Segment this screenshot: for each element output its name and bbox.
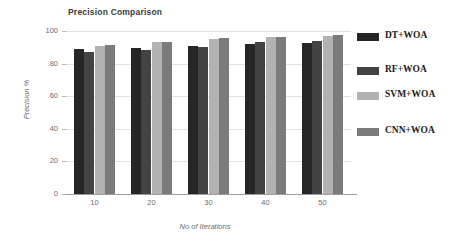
- bar-dt-woa-20: [131, 48, 141, 194]
- y-axis-tick: 40: [32, 124, 58, 133]
- bar-svm-woa-50: [323, 36, 333, 194]
- bar-svm-woa-30: [209, 39, 219, 194]
- legend-label: SVM+WOA: [385, 89, 435, 99]
- legend-swatch-icon: [357, 67, 379, 75]
- x-axis-tick-20: 20: [132, 198, 172, 207]
- y-axis-tick: 20: [32, 156, 58, 165]
- x-axis-tick-10: 10: [75, 198, 115, 207]
- bar-svm-woa-20: [152, 42, 162, 194]
- x-axis-tick-30: 30: [189, 198, 229, 207]
- legend-swatch-icon: [357, 128, 379, 136]
- y-axis-tick: 100: [32, 26, 58, 35]
- bar-group: [245, 31, 287, 194]
- x-axis-line: [66, 194, 357, 195]
- y-axis-tick: 80: [32, 59, 58, 68]
- y-axis-tick: 60: [32, 91, 58, 100]
- bar-dt-woa-50: [302, 43, 312, 194]
- bar-group: [131, 31, 173, 194]
- bar-cnn-woa-30: [219, 38, 229, 194]
- precision-comparison-chart: Precision Comparison Precision % 0204060…: [0, 0, 459, 244]
- bar-cnn-woa-50: [333, 35, 343, 194]
- bar-rf-woa-30: [198, 47, 208, 194]
- bar-rf-woa-40: [255, 42, 265, 194]
- bar-cnn-woa-10: [105, 45, 115, 194]
- bar-group: [74, 31, 116, 194]
- bar-rf-woa-20: [141, 50, 151, 194]
- bar-dt-woa-40: [245, 44, 255, 194]
- bar-dt-woa-30: [188, 46, 198, 194]
- bar-rf-woa-10: [84, 52, 94, 194]
- bar-dt-woa-10: [74, 49, 84, 194]
- x-axis-tick-50: 50: [303, 198, 343, 207]
- legend-label: CNN+WOA: [385, 125, 435, 135]
- legend-swatch-icon: [357, 33, 379, 41]
- legend-label: RF+WOA: [385, 64, 427, 74]
- bar-cnn-woa-20: [162, 42, 172, 194]
- legend-swatch-icon: [357, 92, 379, 100]
- plot-area: [66, 31, 351, 194]
- chart-title: Precision Comparison: [68, 7, 162, 17]
- y-axis-tick: 0: [32, 189, 58, 198]
- bar-cnn-woa-40: [276, 37, 286, 194]
- bar-group: [188, 31, 230, 194]
- bar-svm-woa-10: [95, 46, 105, 194]
- x-axis-label: No of Iterations: [0, 222, 410, 231]
- bar-svm-woa-40: [266, 37, 276, 194]
- y-axis-label: Precision %: [22, 65, 31, 135]
- bar-rf-woa-50: [312, 41, 322, 194]
- bar-group: [302, 31, 344, 194]
- x-axis-tick-40: 40: [246, 198, 286, 207]
- legend-label: DT+WOA: [385, 30, 427, 40]
